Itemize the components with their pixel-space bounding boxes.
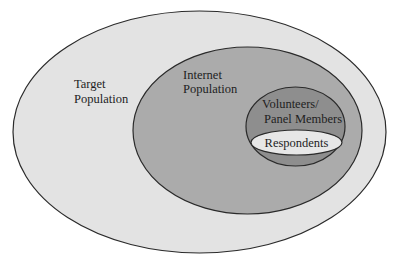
nested-population-diagram: Target Population Internet Population Vo… bbox=[0, 0, 398, 258]
respondents-set: Respondents bbox=[251, 130, 342, 155]
respondents-label: Respondents bbox=[265, 136, 329, 150]
